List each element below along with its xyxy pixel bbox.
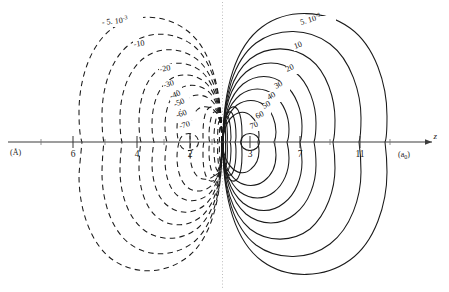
horizontal-axis — [8, 136, 432, 148]
contour-plot-canvas: 6 4 2 3 7 11 (Å) (a0) z - 5. 10-3 -10 -2… — [0, 0, 449, 292]
contour-plot-figure: 6 4 2 3 7 11 (Å) (a0) z - 5. 10-3 -10 -2… — [0, 0, 449, 292]
tick-label-left-2: 2 — [188, 149, 193, 159]
tick-label-right-7: 7 — [298, 149, 303, 159]
tick-label-left-4: 4 — [135, 149, 140, 159]
negative-lobe-contours — [79, 17, 222, 271]
negative-contour-labels: - 5. 10-3 -10 -20 -30 -40 -50 -60 -70 — [100, 14, 198, 131]
contour-pos-30 — [223, 63, 316, 223]
contour-label-neg-20: -20 — [159, 63, 171, 74]
axis-unit-angstrom: (Å) — [10, 148, 21, 157]
axis-unit-bohr-close: ) — [407, 150, 410, 159]
contour-pos-40 — [223, 77, 302, 211]
axis-unit-bohr: (a0) — [398, 150, 410, 160]
axis-arrow-z — [425, 139, 432, 145]
contour-neg-5e-3 — [79, 17, 222, 271]
contour-label-neg-10: -10 — [133, 39, 145, 49]
contour-pos-5e-3 — [223, 14, 387, 275]
tick-label-right-11: 11 — [355, 149, 364, 159]
tick-label-right-3: 3 — [248, 149, 253, 159]
positive-contour-labels: 5. 10-3 10 20 30 40 50 60 70 — [249, 11, 336, 131]
contour-pos-50 — [223, 89, 289, 198]
tick-label-left-6: 6 — [71, 149, 76, 159]
axis-name-z: z — [432, 131, 437, 141]
positive-lobe-contours — [223, 14, 387, 275]
contour-pos-20 — [223, 49, 335, 239]
